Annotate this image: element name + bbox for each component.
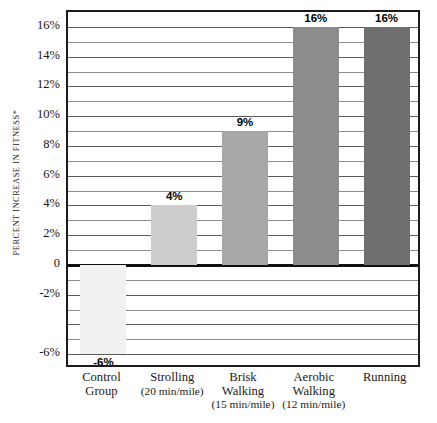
x-axis-category-labels: ControlGroupStrolling(20 min/mile)BriskW…: [66, 371, 420, 423]
bar-value-label: -6%: [66, 356, 143, 367]
x-label-line2: Walking: [264, 385, 364, 399]
y-axis-tick-label: 6%: [14, 167, 60, 180]
bar-value-label: 4%: [134, 190, 214, 202]
x-axis-label-4: Running: [335, 371, 435, 385]
y-axis-tick-label: 12%: [14, 78, 60, 91]
bar: [293, 27, 339, 265]
bar-value-label: 16%: [347, 12, 420, 24]
bar-chart-figure: PERCENT INCREASE IN FITNESS* 16%14%12%10…: [0, 0, 437, 423]
bar-value-label: 16%: [276, 12, 356, 24]
bar: [80, 265, 126, 354]
y-axis-tick-label: 2%: [14, 227, 60, 240]
plot-area: -6%4%9%16%16%: [66, 10, 420, 367]
bar: [222, 131, 268, 265]
bar-value-label: 9%: [205, 116, 285, 128]
y-axis-tick-label: 14%: [14, 48, 60, 61]
y-axis-tick-labels: 16%14%12%10%8%6%4%2%0-2%-6%: [14, 10, 60, 367]
gridline: [68, 354, 418, 355]
y-axis-tick-label: 8%: [14, 138, 60, 151]
x-label-line1: Running: [335, 371, 435, 385]
y-axis-tick-label: 0: [14, 257, 60, 270]
x-label-line3: (12 min/mile): [264, 398, 364, 412]
y-axis-tick-label: -2%: [14, 286, 60, 299]
y-axis-tick-label: 4%: [14, 197, 60, 210]
y-axis-tick-label: 16%: [14, 19, 60, 32]
bar: [151, 205, 197, 265]
y-axis-tick-label: 10%: [14, 108, 60, 121]
y-axis-tick-label: -6%: [14, 346, 60, 359]
bar: [364, 27, 410, 265]
